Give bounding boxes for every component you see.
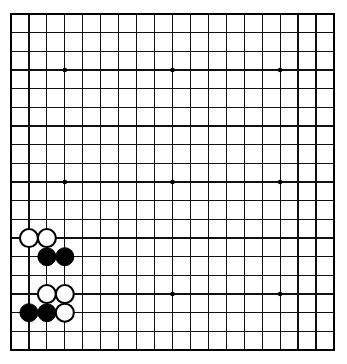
- star-point-icon: [278, 180, 283, 185]
- star-point-icon: [63, 180, 68, 185]
- star-point-icon: [170, 292, 175, 297]
- white-stone[interactable]: [38, 229, 56, 247]
- star-point-icon: [170, 180, 175, 185]
- star-point-icon: [63, 68, 68, 73]
- black-stone[interactable]: [56, 248, 74, 266]
- white-stone[interactable]: [56, 304, 74, 322]
- star-point-icon: [278, 292, 283, 297]
- go-board-canvas[interactable]: [0, 0, 347, 364]
- white-stone[interactable]: [20, 229, 38, 247]
- star-point-icon: [170, 68, 175, 73]
- white-stone[interactable]: [56, 285, 74, 303]
- go-board-diagram: [0, 0, 347, 364]
- star-point-icon: [278, 68, 283, 73]
- black-stone[interactable]: [20, 304, 38, 322]
- white-stone[interactable]: [38, 285, 56, 303]
- black-stone[interactable]: [38, 304, 56, 322]
- black-stone[interactable]: [38, 248, 56, 266]
